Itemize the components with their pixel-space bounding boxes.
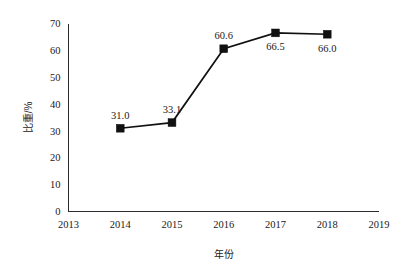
- y-tick-label: 50: [50, 72, 61, 83]
- y-axis-title: 比重/%: [22, 102, 34, 134]
- y-tick-label: 30: [50, 126, 61, 137]
- data-point-marker: [323, 30, 331, 38]
- x-axis-title: 年份: [214, 248, 234, 260]
- data-point-marker: [168, 119, 176, 127]
- x-tick-label: 2015: [162, 219, 183, 230]
- x-tick-label: 2014: [110, 219, 132, 230]
- line-chart-figure: 010203040506070 201320142015201620172018…: [0, 0, 401, 273]
- x-tick-label: 2019: [369, 219, 390, 230]
- chart-canvas: 010203040506070 201320142015201620172018…: [0, 0, 401, 273]
- data-point-marker: [272, 29, 280, 37]
- y-tick-label: 40: [50, 99, 61, 110]
- y-tick-label: 10: [50, 179, 61, 190]
- data-point-marker: [220, 45, 228, 53]
- y-tick-label: 60: [50, 45, 61, 56]
- x-tick-label: 2013: [58, 219, 79, 230]
- y-tick-label: 70: [50, 18, 61, 29]
- data-point-label: 33.1: [163, 104, 181, 115]
- y-tick-label: 20: [50, 152, 61, 163]
- data-point-marker: [116, 124, 124, 132]
- data-point-label: 66.5: [266, 41, 284, 52]
- data-point-label: 60.6: [215, 30, 233, 41]
- data-point-label: 66.0: [318, 43, 336, 54]
- data-point-label: 31.0: [111, 110, 129, 121]
- y-tick-label: 0: [55, 206, 60, 217]
- x-tick-label: 2018: [317, 219, 338, 230]
- x-tick-label: 2016: [213, 219, 234, 230]
- x-tick-label: 2017: [265, 219, 286, 230]
